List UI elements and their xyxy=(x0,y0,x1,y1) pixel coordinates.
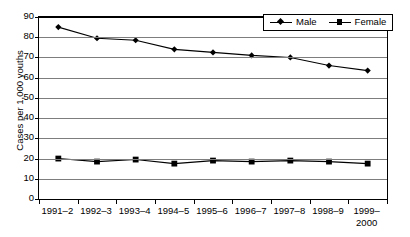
y-axis-tick-mark xyxy=(35,37,39,38)
y-axis-tick-mark xyxy=(35,179,39,180)
x-axis-tick-mark xyxy=(310,199,311,204)
y-axis-tick-mark xyxy=(35,159,39,160)
line-chart: Cases per 1,000 youths 90807060504030201… xyxy=(0,0,410,237)
y-axis-tick-label: 80 xyxy=(12,31,34,41)
y-axis-tick-label: 30 xyxy=(12,132,34,142)
square-marker-icon xyxy=(133,157,139,163)
x-axis-tick-mark xyxy=(194,199,195,204)
x-axis-tick-mark xyxy=(271,199,272,204)
y-axis-tick-mark xyxy=(35,78,39,79)
gridline xyxy=(39,57,387,58)
y-axis-tick-mark xyxy=(35,138,39,139)
diamond-marker-icon xyxy=(210,49,216,55)
square-marker-icon xyxy=(337,19,343,25)
gridline xyxy=(39,199,387,200)
diamond-marker-icon xyxy=(277,18,284,25)
x-axis-tick-labels: 1991–21992–31993–41994–51995–61996–71997… xyxy=(38,205,386,235)
square-marker-icon xyxy=(171,161,177,167)
diamond-marker-icon xyxy=(94,35,100,41)
y-axis-tick-label: 90 xyxy=(12,11,34,21)
plot-area xyxy=(38,16,388,200)
y-axis-tick-label: 70 xyxy=(12,51,34,61)
square-marker-icon xyxy=(329,17,351,27)
x-axis-tick-mark xyxy=(387,199,388,204)
y-axis-tick-label: 10 xyxy=(12,173,34,183)
diamond-marker-icon xyxy=(55,24,61,30)
gridline xyxy=(39,138,387,139)
x-axis-tick-label: 1996–7 xyxy=(235,205,267,217)
diamond-marker-icon xyxy=(365,67,371,73)
y-axis-tick-label: 50 xyxy=(12,92,34,102)
gridline xyxy=(39,159,387,160)
x-axis-tick-label: 1994–5 xyxy=(157,205,189,217)
legend-entry-male: Male xyxy=(270,17,317,27)
y-axis-tick-mark xyxy=(35,17,39,18)
x-axis-tick-mark xyxy=(232,199,233,204)
series-female xyxy=(55,156,370,167)
x-axis-tick-label: 1992–3 xyxy=(80,205,112,217)
x-axis-tick-mark xyxy=(39,199,40,204)
x-axis-tick-mark xyxy=(78,199,79,204)
legend-entry-female: Female xyxy=(329,17,387,27)
gridline xyxy=(39,118,387,119)
x-axis-tick-label: 1991–2 xyxy=(41,205,73,217)
gridline xyxy=(39,179,387,180)
chart-legend: MaleFemale xyxy=(263,14,393,31)
series-line xyxy=(58,27,367,70)
series-layer xyxy=(39,17,387,199)
y-axis-tick-label: 0 xyxy=(12,193,34,203)
x-axis-tick-label: 1995–6 xyxy=(196,205,228,217)
diamond-marker-icon xyxy=(171,46,177,52)
x-axis-tick-label: 1997–8 xyxy=(273,205,305,217)
square-marker-icon xyxy=(326,159,332,165)
x-axis-tick-mark xyxy=(348,199,349,204)
y-axis-tick-label: 40 xyxy=(12,112,34,122)
x-axis-tick-mark xyxy=(116,199,117,204)
gridline xyxy=(39,37,387,38)
y-axis-tick-labels: 9080706050403020100 xyxy=(12,16,34,198)
y-axis-tick-mark xyxy=(35,118,39,119)
x-axis-tick-label: 1999– 2000 xyxy=(353,205,379,228)
legend-label: Female xyxy=(355,17,387,27)
x-axis-tick-mark xyxy=(155,199,156,204)
legend-label: Male xyxy=(296,17,317,27)
x-axis-tick-label: 1993–4 xyxy=(119,205,151,217)
series-male xyxy=(55,24,371,74)
x-axis-tick-label: 1998–9 xyxy=(312,205,344,217)
diamond-marker-icon xyxy=(270,17,292,27)
square-marker-icon xyxy=(365,161,371,167)
gridline xyxy=(39,78,387,79)
y-axis-tick-mark xyxy=(35,57,39,58)
y-axis-tick-label: 20 xyxy=(12,153,34,163)
y-axis-tick-mark xyxy=(35,98,39,99)
square-marker-icon xyxy=(94,159,100,165)
gridline xyxy=(39,98,387,99)
diamond-marker-icon xyxy=(326,62,332,68)
square-marker-icon xyxy=(249,159,255,165)
y-axis-tick-label: 60 xyxy=(12,72,34,82)
